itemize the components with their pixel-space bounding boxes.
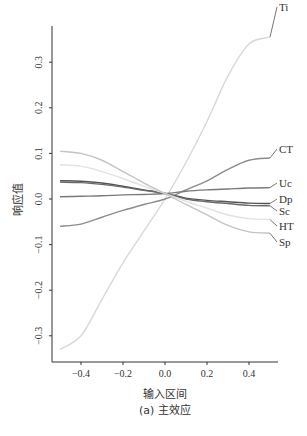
x-tick-label: 0.0 xyxy=(159,368,172,379)
leader-line xyxy=(270,233,277,242)
y-ticks: 0.30.20.10.0−0.1−0.2−0.3 xyxy=(33,56,52,345)
series-label-dp: Dp xyxy=(279,193,293,205)
series-label-uc: Uc xyxy=(279,177,292,189)
x-tick-label: 0.2 xyxy=(201,368,214,379)
y-tick-label: −0.2 xyxy=(33,281,44,299)
leader-line xyxy=(270,199,277,204)
series-lines xyxy=(60,37,270,349)
series-label-ct: CT xyxy=(279,143,293,155)
series-label-ti: Ti xyxy=(279,1,288,13)
series-line-uc xyxy=(60,188,270,197)
x-tick-label: 0.4 xyxy=(243,368,256,379)
y-tick-label: 0.2 xyxy=(33,102,44,115)
x-ticks: −0.4−0.20.00.20.4 xyxy=(72,362,255,379)
y-tick-label: −0.3 xyxy=(33,327,44,345)
series-label-sc: Sc xyxy=(279,205,290,217)
leader-line xyxy=(270,7,277,37)
series-label-ht: HT xyxy=(279,220,294,232)
y-axis-title: 响应值 xyxy=(11,183,25,216)
y-tick-label: 0.3 xyxy=(33,56,44,68)
figure-caption: (a) 主效应 xyxy=(139,403,191,417)
series-label-sp: Sp xyxy=(279,236,291,248)
leader-line xyxy=(270,220,277,226)
x-tick-label: −0.4 xyxy=(72,368,90,379)
y-tick-label: −0.1 xyxy=(33,236,44,254)
leader-line xyxy=(270,206,277,211)
leader-line xyxy=(270,149,277,158)
y-tick-label: 0.0 xyxy=(33,193,44,206)
main-effect-chart: 0.30.20.10.0−0.1−0.2−0.3 −0.4−0.20.00.20… xyxy=(0,0,307,436)
y-tick-label: 0.1 xyxy=(33,147,44,160)
series-labels: TiCTUcDpScHTSp xyxy=(270,1,294,248)
x-tick-label: −0.2 xyxy=(114,368,132,379)
leader-line xyxy=(270,183,277,188)
series-line-ht xyxy=(60,165,270,220)
x-axis-title: 输入区间 xyxy=(143,387,187,401)
